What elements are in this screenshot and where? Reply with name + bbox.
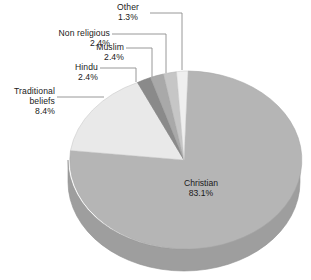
label-other-name: Other: [104, 2, 152, 12]
label-nonreligious-name: Non religious: [26, 28, 110, 38]
label-muslim-name: Muslim: [70, 42, 124, 52]
label-christian-pct: 83.1%: [166, 188, 236, 198]
label-other: Other 1.3%: [104, 2, 152, 22]
label-other-pct: 1.3%: [104, 12, 152, 22]
label-traditional-name: Traditional: [2, 86, 55, 96]
label-hindu-pct: 2.4%: [44, 72, 98, 82]
label-traditional: Traditional beliefs 8.4%: [2, 86, 55, 117]
pie-top-face: [70, 71, 302, 249]
label-christian: Christian 83.1%: [166, 178, 236, 199]
leader-line-hindu: [100, 68, 136, 82]
label-christian-name: Christian: [166, 178, 236, 188]
leader-line-muslim: [126, 48, 152, 77]
label-hindu-name: Hindu: [44, 62, 98, 72]
label-hindu: Hindu 2.4%: [44, 62, 98, 82]
label-traditional-name2: beliefs: [2, 96, 55, 106]
label-muslim-pct: 2.4%: [70, 52, 124, 62]
label-traditional-pct: 8.4%: [2, 106, 55, 116]
label-muslim: Muslim 2.4%: [70, 42, 124, 62]
pie-chart-figure: Other 1.3% Non religious 2.4% Muslim 2.4…: [0, 0, 311, 280]
